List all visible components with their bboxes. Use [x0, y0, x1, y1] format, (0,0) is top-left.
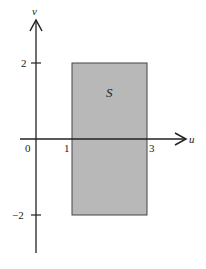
origin-label: 0	[25, 142, 31, 154]
uv-plane-diagram: v u 0 1 3 2 −2 S	[0, 0, 206, 269]
tick-label-u-3: 3	[149, 142, 155, 154]
tick-label-u-1: 1	[64, 142, 70, 154]
tick-label-v-neg2: −2	[12, 209, 24, 221]
v-axis-label: v	[32, 5, 37, 17]
tick-label-v-2: 2	[21, 57, 27, 69]
region-label: S	[106, 85, 113, 100]
u-axis-label: u	[189, 133, 195, 145]
